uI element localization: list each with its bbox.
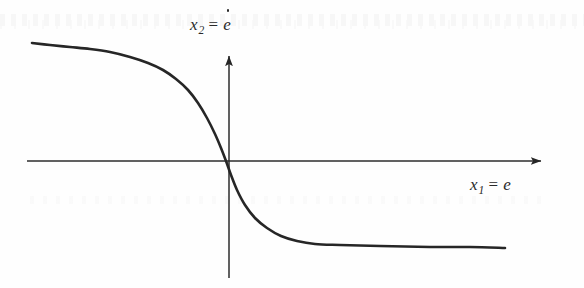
axes-group [27,56,541,278]
plot-canvas [0,0,584,288]
y-axis-variable: x [190,15,198,34]
y-axis-value-letter: e [223,15,231,34]
x-axis-value: e [503,175,511,194]
y-axis-equals-sign: = [205,15,224,34]
x-axis-subscript: 1 [478,184,485,196]
derivative-dot-icon [227,9,230,12]
y-axis-value: e [223,15,231,35]
x-axis-equals-sign: = [485,175,504,194]
data-series-group [32,43,505,248]
phase-plane-figure: x2=e x1=e [0,0,584,288]
x-axis-variable: x [470,175,478,194]
nonlinearity-curve [32,43,505,248]
y-axis-label: x2=e [190,15,231,36]
x-axis-label: x1=e [470,175,511,196]
y-axis-subscript: 2 [198,24,205,36]
